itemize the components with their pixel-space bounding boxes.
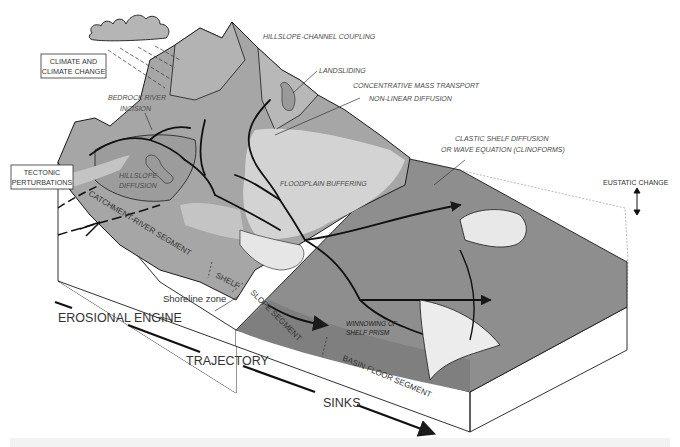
label-landsliding: LANDSLIDING xyxy=(319,67,366,74)
tectonic-label-box: TECTONIC PERTURBATIONS xyxy=(11,165,73,189)
label-sinks: SINKS xyxy=(323,396,361,410)
label-hillslope-diffusion-1: HILLSLOPE xyxy=(119,172,157,179)
label-hillslope-diffusion-2: DIFFUSION xyxy=(119,182,158,189)
svg-text:PERTURBATIONS: PERTURBATIONS xyxy=(12,178,73,187)
svg-text:TECTONIC: TECTONIC xyxy=(24,168,61,177)
footer-band xyxy=(10,438,670,447)
label-clastic-shelf-diffusion-1: CLASTIC SHELF DIFFUSION xyxy=(455,135,550,142)
label-hillslope-channel-coupling: HILLSLOPE-CHANNEL COUPLING xyxy=(263,33,376,40)
source-to-sink-diagram: CLIMATE AND CLIMATE CHANGE TECTONIC PERT… xyxy=(0,0,680,447)
label-bedrock-river-incision-2: INCISION xyxy=(120,105,152,112)
label-trajectory: TRAJECTORY xyxy=(186,354,270,368)
label-clastic-shelf-diffusion-2: OR WAVE EQUATION (CLINOFORMS) xyxy=(441,146,565,154)
eustatic-arrow-icon xyxy=(634,188,640,215)
label-erosional-engine: EROSIONAL ENGINE xyxy=(58,311,182,325)
label-eustatic-change: EUSTATIC CHANGE xyxy=(603,179,669,186)
svg-text:CLIMATE AND: CLIMATE AND xyxy=(50,57,97,66)
label-shoreline-zone: Shoreline zone xyxy=(163,293,226,304)
label-bedrock-river-incision-1: BEDROCK RIVER xyxy=(108,94,166,101)
climate-label-box: CLIMATE AND CLIMATE CHANGE xyxy=(41,54,106,78)
svg-text:CLIMATE CHANGE: CLIMATE CHANGE xyxy=(42,67,106,76)
label-floodplain-buffering: FLOODPLAIN BUFFERING xyxy=(280,180,367,187)
cloud-icon xyxy=(89,15,169,41)
label-non-linear-diffusion: NON-LINEAR DIFFUSION xyxy=(369,95,453,102)
label-winnowing-2: SHELF PRISM xyxy=(346,329,390,336)
label-concentrative-mass-transport: CONCENTRATIVE MASS TRANSPORT xyxy=(353,82,480,89)
label-winnowing-1: WINNOWING OF xyxy=(346,320,398,327)
